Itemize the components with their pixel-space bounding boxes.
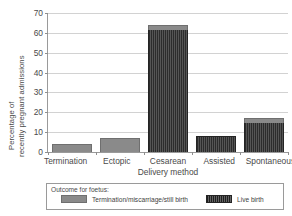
bar-slot	[240, 13, 288, 152]
y-axis-tick-label: 60	[34, 28, 43, 38]
bar-termination[interactable]	[52, 144, 92, 152]
x-axis-label-assisted: Assisted	[194, 156, 245, 166]
x-axis-tick-labels: TerminationEctopicCesareanAssistedSponta…	[40, 156, 292, 166]
x-axis-title: Delivery method	[48, 167, 288, 177]
y-axis-tick-label: 10	[34, 127, 43, 137]
legend-box: Outcome for foetus: Termination/miscarri…	[46, 183, 284, 210]
legend-item-live-birth: Live birth	[206, 195, 264, 203]
bar-segment-live-birth[interactable]	[196, 136, 236, 152]
legend-label-live-birth: Live birth	[237, 196, 264, 203]
x-axis-label-spontaneous: Spontaneous	[245, 156, 292, 166]
bar-slot	[48, 13, 96, 152]
bar-segment-live-birth[interactable]	[148, 30, 188, 152]
bar-slot	[96, 13, 144, 152]
y-axis-title: Percentage of recently pregnant admissio…	[0, 0, 30, 160]
x-axis-tick-mark	[96, 152, 97, 155]
bar-cesarean[interactable]	[148, 25, 188, 152]
live-birth-swatch-icon	[206, 195, 232, 203]
x-axis-tick-mark	[144, 152, 145, 155]
bar-slot	[144, 13, 192, 152]
y-axis-title-line-2: recently pregnant admissions	[17, 55, 26, 157]
bar-segment-live-birth[interactable]	[244, 123, 284, 152]
bar-slot	[192, 13, 240, 152]
y-axis-tick-label: 30	[34, 87, 43, 97]
y-axis-tick-label: 70	[34, 8, 43, 18]
bar-assisted[interactable]	[196, 136, 236, 152]
x-axis-label-termination: Termination	[40, 156, 91, 166]
y-axis-title-line-1: Percentage of	[7, 101, 16, 150]
x-axis-label-cesarean: Cesarean	[142, 156, 193, 166]
y-axis-tick-label: 20	[34, 107, 43, 117]
x-axis-tick-mark	[288, 152, 289, 155]
bar-chart-figure: Percentage of recently pregnant admissio…	[0, 0, 292, 216]
bar-segment-termination[interactable]	[52, 144, 92, 152]
bar-ectopic[interactable]	[100, 138, 140, 152]
termination-swatch-icon	[61, 195, 87, 203]
x-axis-label-ectopic: Ectopic	[91, 156, 142, 166]
plot-area: 010203040506070 TerminationEctopicCesare…	[47, 13, 288, 153]
bar-spontaneous[interactable]	[244, 118, 284, 152]
x-axis-tick-mark	[48, 152, 49, 155]
legend-row: Termination/miscarriage/still birth Live…	[51, 195, 279, 203]
legend-title: Outcome for foetus:	[51, 186, 279, 194]
x-axis-tick-mark	[192, 152, 193, 155]
bar-segment-termination[interactable]	[100, 138, 140, 152]
x-axis-tick-mark	[240, 152, 241, 155]
legend-item-termination: Termination/miscarriage/still birth	[61, 195, 188, 203]
bar-group	[48, 13, 288, 152]
y-axis-tick-label: 50	[34, 48, 43, 58]
legend-label-termination: Termination/miscarriage/still birth	[92, 196, 188, 203]
y-axis-tick-label: 40	[34, 68, 43, 78]
